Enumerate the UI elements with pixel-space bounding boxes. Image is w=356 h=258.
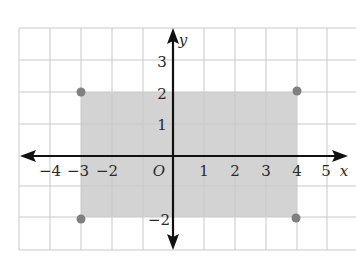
x-tick-label: −4 [39,162,61,180]
x-tick-label: −3 [67,162,89,180]
shaded-region [81,92,297,217]
x-tick-label: 5 [321,162,331,180]
x-tick-label: 1 [199,162,209,180]
y-tick-label: 1 [157,116,167,134]
y-tick-label: −2 [148,211,170,229]
x-tick-label: 2 [230,162,240,180]
x-tick-label: 4 [292,162,302,180]
y-axis-label: y [178,31,188,49]
coordinate-plane: −4 −3 −2 1 2 3 4 5 x O 3 2 1 −2 y [0,0,356,258]
origin-label: O [153,162,165,180]
x-axis-label: x [340,162,349,180]
point-neg3-neg2 [77,215,86,224]
y-tick-label: 2 [157,85,167,103]
x-tick-label: −2 [96,162,118,180]
y-tick-label: 3 [157,53,167,71]
point-4-neg2 [292,214,301,223]
point-4-2 [293,87,302,96]
x-tick-label: 3 [261,162,271,180]
point-neg3-2 [77,88,86,97]
